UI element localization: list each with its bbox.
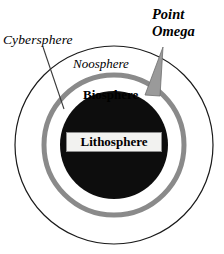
label-biosphere: Biosphere [83, 88, 138, 102]
label-cybersphere: Cybersphere [3, 33, 73, 48]
label-lithosphere-text: Lithosphere [81, 135, 148, 149]
label-point-omega: Point Omega [152, 6, 195, 39]
diagram-canvas: Cybersphere Point Omega Noosphere Biosph… [0, 0, 224, 254]
label-noosphere: Noosphere [73, 57, 129, 71]
label-point-omega-line2: Omega [152, 23, 195, 40]
cybersphere-leader-line [43, 47, 64, 109]
label-point-omega-line1: Point [152, 6, 195, 23]
label-lithosphere-box: Lithosphere [66, 132, 162, 152]
